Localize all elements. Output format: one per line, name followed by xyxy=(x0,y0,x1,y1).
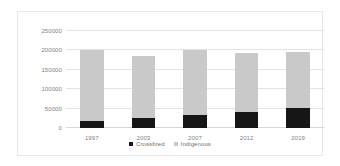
bars-layer: 19972003200720122019 xyxy=(66,31,324,128)
bar-segment-crossbred[interactable] xyxy=(235,112,259,128)
chart-frame: 050000100000150000200000250000 199720032… xyxy=(17,11,323,156)
legend-item[interactable]: Indigenous xyxy=(174,141,211,147)
bar-group[interactable]: 2007 xyxy=(183,31,207,128)
y-axis-tick-label: 200000 xyxy=(41,47,62,53)
y-axis-tick-label: 150000 xyxy=(41,67,62,73)
bar-segment-indigenous[interactable] xyxy=(80,50,104,121)
legend-item[interactable]: Crossbred xyxy=(129,141,165,147)
plot-area: 050000100000150000200000250000 199720032… xyxy=(66,31,324,128)
bar-segment-crossbred[interactable] xyxy=(80,121,104,128)
y-axis-tick-label: 0 xyxy=(59,125,62,131)
bar-segment-indigenous[interactable] xyxy=(132,56,156,118)
chart-legend: CrossbredIndigenous xyxy=(18,141,322,147)
bar-group[interactable]: 1997 xyxy=(80,31,104,128)
legend-item-label: Indigenous xyxy=(181,141,211,147)
legend-item-label: Crossbred xyxy=(136,141,165,147)
bar-group[interactable]: 2012 xyxy=(235,31,259,128)
square-gray-icon xyxy=(174,142,178,146)
bar-segment-indigenous[interactable] xyxy=(235,53,259,112)
y-axis-tick-label: 250000 xyxy=(41,28,62,34)
bar-segment-indigenous[interactable] xyxy=(286,52,310,108)
bar-segment-crossbred[interactable] xyxy=(132,118,156,128)
bar-group[interactable]: 2003 xyxy=(132,31,156,128)
bar-group[interactable]: 2019 xyxy=(286,31,310,128)
y-axis-tick-label: 100000 xyxy=(41,86,62,92)
bar-segment-crossbred[interactable] xyxy=(286,108,310,128)
y-axis-tick-label: 50000 xyxy=(45,106,62,112)
bar-segment-indigenous[interactable] xyxy=(183,50,207,116)
square-black-icon xyxy=(129,142,133,146)
bar-segment-crossbred[interactable] xyxy=(183,115,207,128)
